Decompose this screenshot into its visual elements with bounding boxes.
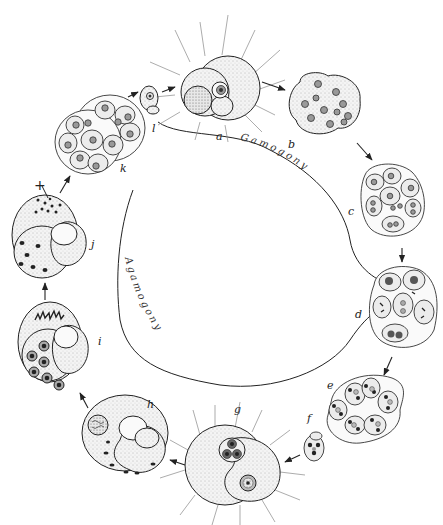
label-k: k [120,162,127,175]
stage-k-young-gamont [55,95,145,174]
stage-j-release [12,195,86,278]
label-h: h [147,398,154,411]
life-cycle-diagram: Gamogony Agamogony a l [0,0,443,525]
arrow-k-to-l [128,92,138,97]
label-a: a [216,130,223,143]
agamogony-label: Agamogony [123,255,166,334]
stage-f-fusion [304,432,324,461]
arrow-f-to-g [285,455,300,462]
arrow-d-to-e [384,357,392,375]
arrow-a-to-b [262,82,285,90]
stage-e-gametes [327,375,403,443]
label-b: b [288,138,295,151]
label-i: i [98,335,102,348]
label-j: j [88,238,95,251]
label-g: g [234,403,241,416]
agamogony-curve [118,190,395,386]
stage-c-cleavage [361,164,424,236]
arrow-g-to-h [170,460,185,465]
stage-h-nuclear-division [82,395,168,475]
label-f: f [306,412,313,425]
label-c: c [348,205,354,218]
label-l: l [152,122,156,135]
label-d: d [355,308,362,321]
stage-a-gamont [145,15,285,142]
stage-i-embryos [18,302,88,390]
stage-d-gametes-forming [369,266,437,347]
label-e: e [327,379,334,392]
arrow-l-to-a [162,87,175,92]
arrow-j-to-k [60,176,70,193]
arrow-b-to-c [357,143,372,160]
stage-l-zygote [140,86,159,114]
arrow-h-to-i [80,393,88,408]
gamogony-label: Gamogony [240,131,312,173]
stage-b-multinucleate [289,73,360,134]
